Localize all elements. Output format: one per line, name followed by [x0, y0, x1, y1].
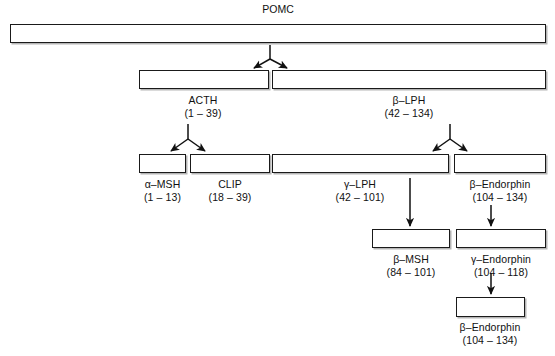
- node-box-beta-msh[interactable]: [372, 229, 450, 248]
- node-range-beta-lph: (42 – 134): [359, 107, 459, 120]
- node-range-beta-endorphin-upper: (104 – 134): [445, 191, 555, 204]
- node-name-beta-msh: β–MSH: [366, 253, 456, 266]
- node-name-clip: CLIP: [185, 178, 275, 191]
- split-arrow-pomc: [254, 45, 287, 68]
- node-name-beta-endorphin-upper: β–Endorphin: [445, 178, 555, 191]
- node-box-pomc[interactable]: [10, 24, 546, 43]
- node-box-gamma-lph[interactable]: [272, 154, 449, 173]
- node-label-beta-endorphin-final: β–Endorphin (104 – 134): [435, 321, 545, 346]
- node-name-beta-lph: β–LPH: [359, 94, 459, 107]
- node-range-beta-endorphin-final: (104 – 134): [435, 334, 545, 347]
- split-arrow-acth: [171, 124, 205, 151]
- node-name-pomc: POMC: [262, 3, 294, 15]
- node-label-gamma-endorphin: γ–Endorphin (104 – 118): [446, 253, 555, 278]
- node-box-beta-lph[interactable]: [272, 70, 546, 89]
- node-label-beta-msh: β–MSH (84 – 101): [366, 253, 456, 278]
- node-box-gamma-endorphin[interactable]: [456, 229, 546, 248]
- node-range-gamma-endorphin: (104 – 118): [446, 266, 555, 279]
- node-label-beta-lph: β–LPH (42 – 134): [359, 94, 459, 119]
- node-label-acth: ACTH (1 – 39): [153, 94, 253, 119]
- node-name-beta-endorphin-final: β–Endorphin: [435, 321, 545, 334]
- node-range-gamma-lph: (42 – 101): [315, 191, 405, 204]
- node-name-gamma-lph: γ–LPH: [315, 178, 405, 191]
- node-label-gamma-lph: γ–LPH (42 – 101): [315, 178, 405, 203]
- node-name-gamma-endorphin: γ–Endorphin: [446, 253, 555, 266]
- node-label-beta-endorphin-upper: β–Endorphin (104 – 134): [445, 178, 555, 203]
- node-box-beta-endorphin-final[interactable]: [456, 297, 525, 317]
- node-box-acth[interactable]: [139, 70, 269, 89]
- node-range-beta-msh: (84 – 101): [366, 266, 456, 279]
- split-arrow-beta-lph: [433, 124, 467, 151]
- node-box-beta-endorphin-upper[interactable]: [454, 154, 546, 173]
- pomc-processing-diagram: POMC ACTH (1 – 39) β–LPH (42 – 134) α–MS…: [0, 0, 555, 356]
- node-box-alpha-msh[interactable]: [139, 154, 186, 173]
- node-range-clip: (18 – 39): [185, 191, 275, 204]
- node-name-acth: ACTH: [153, 94, 253, 107]
- node-range-acth: (1 – 39): [153, 107, 253, 120]
- node-label-pomc: POMC: [228, 3, 328, 16]
- node-box-clip[interactable]: [190, 154, 270, 173]
- node-label-clip: CLIP (18 – 39): [185, 178, 275, 203]
